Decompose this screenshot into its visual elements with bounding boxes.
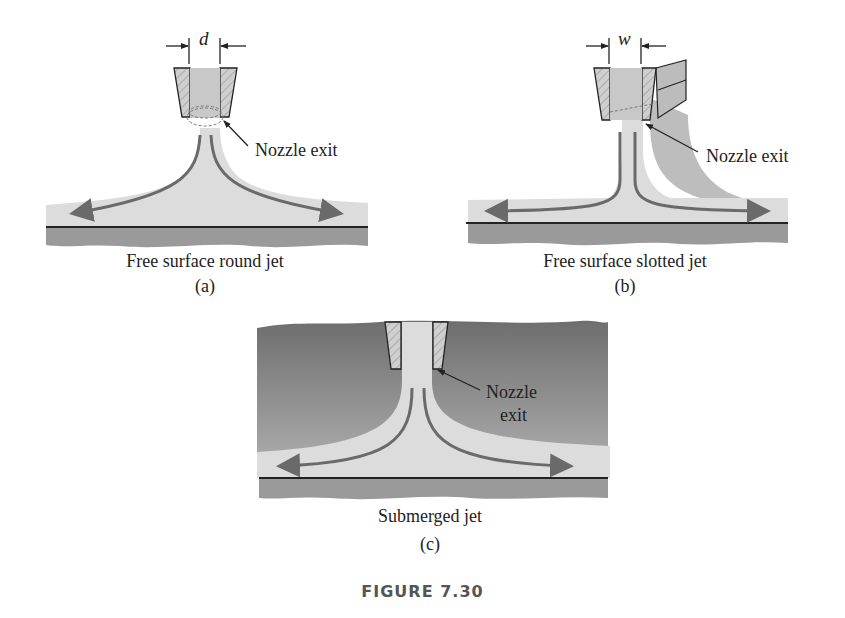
- callout-nozzle-exit-a: Nozzle exit: [255, 140, 337, 161]
- panel-c-diagram: [257, 321, 610, 499]
- panel-letter-b: (b): [520, 276, 730, 297]
- panel-letter-c: (c): [340, 534, 520, 555]
- nozzle-right-wall-a: [220, 68, 237, 117]
- plate-a: [46, 228, 368, 247]
- panel-letter-a: (a): [110, 276, 300, 297]
- nozzle-left-wall-a: [174, 68, 190, 117]
- dimension-label-w: w: [618, 28, 631, 50]
- jet-fluid-b: [468, 120, 788, 222]
- dimension-label-d: d: [199, 28, 209, 50]
- figure-title: FIGURE 7.30: [0, 582, 845, 601]
- plate-b: [468, 224, 788, 245]
- plate-c: [259, 479, 608, 499]
- nozzle-bore-b: [610, 68, 642, 120]
- caption-b: Free surface slotted jet: [520, 251, 730, 272]
- callout-nozzle-c-line1: Nozzle: [486, 382, 537, 403]
- caption-c: Submerged jet: [340, 506, 520, 527]
- caption-a: Free surface round jet: [110, 251, 300, 272]
- callout-nozzle-exit-b: Nozzle exit: [706, 146, 788, 167]
- nozzle-left-wall-b: [594, 68, 610, 120]
- callout-leader-a: [224, 121, 248, 146]
- nozzle-bore-a: [190, 68, 220, 118]
- callout-nozzle-c-line2: exit: [500, 405, 527, 426]
- panel-b-diagram: [466, 38, 788, 245]
